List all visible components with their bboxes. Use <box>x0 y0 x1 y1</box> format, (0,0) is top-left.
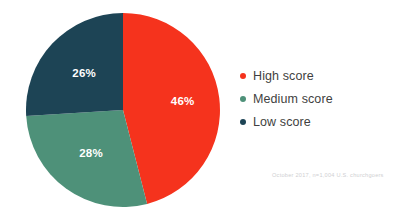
pie-svg: 46% 28% 26% <box>26 13 220 207</box>
pie-slice-low-score[interactable] <box>26 13 123 116</box>
legend-item-label: Medium score <box>253 92 333 106</box>
legend-item-high-score[interactable]: High score <box>240 64 410 87</box>
legend-item-low-score[interactable]: Low score <box>240 110 410 133</box>
pie-chart-figure: 46% 28% 26% High score Medium score Low … <box>0 0 415 222</box>
chart-source-footnote: October 2017, n=1,004 U.S. churchgoers <box>272 172 384 178</box>
pie-label-high-score: 46% <box>171 95 195 107</box>
legend-item-label: High score <box>253 69 314 83</box>
legend-item-medium-score[interactable]: Medium score <box>240 87 410 110</box>
pie-chart-graphic: 46% 28% 26% <box>26 13 220 207</box>
pie-label-low-score: 26% <box>72 67 96 79</box>
chart-legend: High score Medium score Low score <box>240 64 410 133</box>
legend-color-swatch-icon <box>240 73 246 79</box>
legend-color-swatch-icon <box>240 96 246 102</box>
legend-item-label: Low score <box>253 115 311 129</box>
legend-color-swatch-icon <box>240 119 246 125</box>
pie-label-medium-score: 28% <box>79 147 103 159</box>
